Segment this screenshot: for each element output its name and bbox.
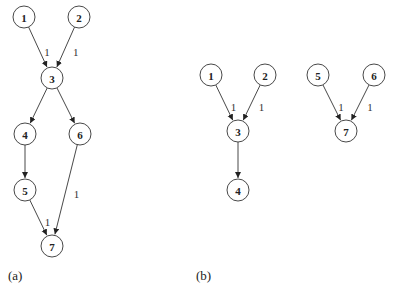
diagram-canvas: 11111111 12346571234567 — [0, 0, 394, 296]
svg-text:1: 1 — [208, 70, 214, 82]
node-2: 2 — [68, 6, 90, 28]
edge-3-6 — [57, 88, 75, 123]
edge-5-7: 1 — [30, 200, 51, 235]
node-4: 4 — [227, 179, 249, 201]
svg-text:4: 4 — [235, 185, 241, 197]
node-4: 4 — [14, 123, 36, 145]
caption-b: (b) — [196, 268, 211, 284]
edge-weight-label: 1 — [231, 101, 237, 113]
caption-a: (a) — [8, 268, 22, 284]
edge-weight-label: 1 — [338, 101, 344, 113]
edge-weight-label: 1 — [367, 101, 373, 113]
svg-text:7: 7 — [343, 126, 349, 138]
edge-weight-label: 1 — [73, 46, 79, 58]
edge-6-7: 1 — [351, 85, 372, 120]
node-3: 3 — [227, 120, 249, 142]
svg-text:1: 1 — [21, 12, 27, 24]
node-5: 5 — [14, 179, 36, 201]
svg-text:6: 6 — [77, 129, 83, 141]
svg-text:5: 5 — [315, 70, 321, 82]
edge-weight-label: 1 — [44, 46, 50, 58]
node-7: 7 — [335, 120, 357, 142]
node-2: 2 — [254, 64, 276, 86]
svg-text:6: 6 — [371, 70, 377, 82]
edge-1-3: 1 — [216, 85, 237, 120]
edge-1-3: 1 — [29, 27, 50, 67]
edge-6-7: 1 — [55, 145, 79, 235]
node-1: 1 — [13, 6, 35, 28]
edge-2-3: 1 — [57, 27, 79, 67]
svg-text:2: 2 — [76, 12, 82, 24]
node-5: 5 — [307, 64, 329, 86]
edge-2-3: 1 — [243, 85, 264, 120]
svg-text:4: 4 — [22, 129, 28, 141]
svg-text:3: 3 — [49, 73, 55, 85]
svg-text:5: 5 — [22, 185, 28, 197]
svg-text:3: 3 — [235, 126, 241, 138]
node-6: 6 — [363, 64, 385, 86]
node-6: 6 — [69, 123, 91, 145]
node-3: 3 — [41, 67, 63, 89]
edge-3-4 — [30, 88, 47, 123]
node-7: 7 — [41, 235, 63, 257]
edge-5-7: 1 — [323, 85, 344, 120]
node-1: 1 — [200, 64, 222, 86]
svg-text:7: 7 — [49, 241, 55, 253]
edge-weight-label: 1 — [74, 188, 80, 200]
edge-weight-label: 1 — [45, 216, 51, 228]
svg-text:2: 2 — [262, 70, 268, 82]
edge-weight-label: 1 — [259, 101, 265, 113]
